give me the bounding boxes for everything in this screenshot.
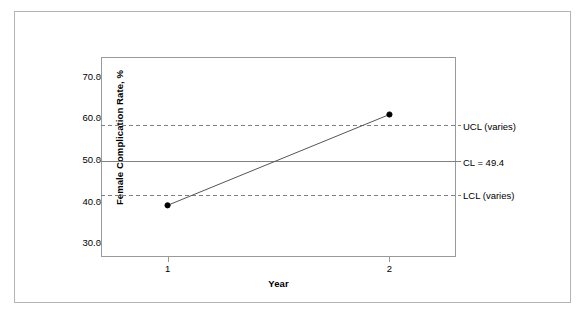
x-tick-label: 2 <box>374 263 404 274</box>
data-point-marker[interactable] <box>387 112 392 117</box>
x-tick-mark <box>168 257 169 262</box>
data-point-marker[interactable] <box>165 203 170 208</box>
lcl-label: LCL (varies) <box>463 190 514 201</box>
x-tick-mark <box>389 257 390 262</box>
x-axis-tick-labels: 12 <box>101 257 456 279</box>
chart-figure: Female Complication Rate, % 30.040.050.0… <box>14 11 571 303</box>
cl-label: CL = 49.4 <box>463 156 504 167</box>
x-axis-title: Year <box>101 278 456 289</box>
ucl-label: UCL (varies) <box>463 120 516 131</box>
x-tick-label: 1 <box>153 263 183 274</box>
data-series-line <box>168 115 390 206</box>
